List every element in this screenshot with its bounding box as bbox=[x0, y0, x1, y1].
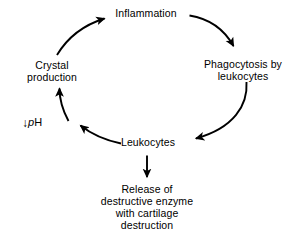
node-phagocytosis-line2: leukocytes bbox=[194, 70, 292, 82]
arrow-inflammation-to-phagocytosis bbox=[190, 16, 234, 47]
cycle-diagram: Inflammation Phagocytosis by leukocytes … bbox=[0, 0, 295, 239]
node-inflammation: Inflammation bbox=[96, 7, 196, 19]
node-phagocytosis: Phagocytosis by leukocytes bbox=[194, 58, 292, 82]
node-release-of-destructive-enzyme: Release of destructive enzyme with carti… bbox=[97, 183, 197, 231]
node-crystal-production: Crystal production bbox=[4, 59, 100, 83]
node-inflammation-line1: Inflammation bbox=[96, 7, 196, 19]
node-phagocytosis-line1: Phagocytosis by bbox=[194, 58, 292, 70]
node-release-line4: destruction bbox=[97, 219, 197, 231]
node-leukocytes-line1: Leukocytes bbox=[98, 136, 198, 148]
node-release-line1: Release of bbox=[97, 183, 197, 195]
arrow-phagocytosis-to-leukocytes bbox=[196, 82, 247, 139]
node-release-line3: with cartilage bbox=[97, 207, 197, 219]
node-crystal-line2: production bbox=[4, 71, 100, 83]
node-ph-symbol-rest: H bbox=[34, 116, 42, 128]
node-leukocytes: Leukocytes bbox=[98, 136, 198, 148]
arrow-crystal-to-inflammation bbox=[57, 19, 105, 56]
node-crystal-line1: Crystal bbox=[4, 59, 100, 71]
node-release-line2: destructive enzyme bbox=[97, 195, 197, 207]
node-decreased-ph: ↓pH bbox=[22, 116, 80, 129]
